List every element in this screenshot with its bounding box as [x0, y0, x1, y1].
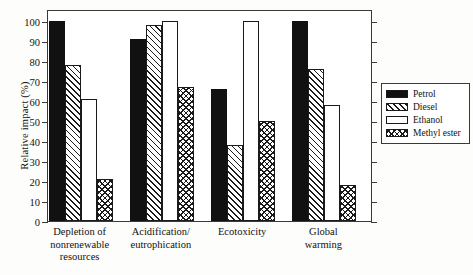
legend-item-diesel[interactable]: Diesel — [386, 101, 465, 113]
y-axis-tick — [42, 222, 48, 223]
bar-petrol-group-3 — [211, 89, 227, 221]
y-axis-tick-right — [371, 22, 377, 23]
chart-legend: PetrolDieselEthanolMethyl ester — [381, 83, 470, 144]
y-axis-tick-right — [371, 142, 377, 143]
y-axis-tick — [42, 82, 48, 83]
y-axis-tick-label: 50 — [6, 117, 40, 128]
y-axis-tick-right — [371, 182, 377, 183]
figure-canvas: Relative impact (%) 01020304050607080901… — [0, 0, 473, 275]
legend-item-methyl-ester[interactable]: Methyl ester — [386, 127, 465, 139]
bar-diesel-group-3 — [227, 145, 243, 221]
legend-label: Diesel — [413, 102, 437, 112]
bar-ethanol-group-3 — [243, 21, 259, 221]
y-axis-tick-right — [371, 162, 377, 163]
y-axis-tick-label: 80 — [6, 57, 40, 68]
legend-label: Petrol — [413, 89, 436, 99]
bar-petrol-group-2 — [130, 39, 146, 221]
bar-petrol-group-1 — [49, 21, 65, 221]
bar-methyl-ester-group-4 — [340, 185, 356, 221]
y-axis-tick — [42, 42, 48, 43]
plot-inner — [48, 11, 371, 221]
y-axis-tick — [42, 202, 48, 203]
y-axis-tick-label: 30 — [6, 157, 40, 168]
legend-swatch-white-empty — [386, 116, 408, 124]
y-axis-tick-right — [371, 222, 377, 223]
y-axis-tick-label: 60 — [6, 97, 40, 108]
y-axis-tick-right — [371, 102, 377, 103]
plot-area: 0102030405060708090100 — [47, 10, 372, 222]
y-axis-tick — [42, 22, 48, 23]
y-axis-tick-label: 10 — [6, 197, 40, 208]
y-axis-tick-right — [371, 202, 377, 203]
legend-item-petrol[interactable]: Petrol — [386, 88, 465, 100]
bar-ethanol-group-1 — [81, 99, 97, 221]
y-axis-tick — [42, 122, 48, 123]
y-axis-tick-label: 20 — [6, 177, 40, 188]
legend-swatch-solid-black — [386, 90, 408, 98]
legend-swatch-cross-hatch — [386, 129, 408, 137]
y-axis-tick — [42, 62, 48, 63]
bar-diesel-group-1 — [65, 65, 81, 221]
y-axis-tick-label: 40 — [6, 137, 40, 148]
y-axis-tick — [42, 162, 48, 163]
bar-methyl-ester-group-3 — [259, 121, 275, 221]
y-axis-tick-right — [371, 82, 377, 83]
y-axis-tick — [42, 142, 48, 143]
bar-ethanol-group-2 — [162, 21, 178, 221]
y-axis-tick-right — [371, 62, 377, 63]
legend-swatch-diagonal-hatch — [386, 103, 408, 111]
bar-ethanol-group-4 — [324, 105, 340, 221]
legend-label: Methyl ester — [413, 128, 461, 138]
y-axis-tick-label: 100 — [6, 17, 40, 28]
y-axis-tick-right — [371, 122, 377, 123]
x-axis-label-4: Global warming — [263, 226, 383, 251]
bar-diesel-group-4 — [308, 69, 324, 221]
y-axis-tick-right — [371, 42, 377, 43]
y-axis-tick — [42, 182, 48, 183]
y-axis-tick-label: 70 — [6, 77, 40, 88]
bar-petrol-group-4 — [292, 21, 308, 221]
legend-item-ethanol[interactable]: Ethanol — [386, 114, 465, 126]
y-axis-tick — [42, 102, 48, 103]
y-axis-tick-label: 90 — [6, 37, 40, 48]
bar-methyl-ester-group-1 — [97, 179, 113, 221]
legend-label: Ethanol — [413, 115, 443, 125]
bar-diesel-group-2 — [146, 25, 162, 221]
bar-methyl-ester-group-2 — [178, 87, 194, 221]
